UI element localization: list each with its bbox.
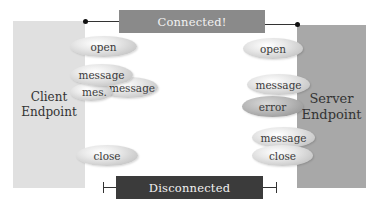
connected-right-dot [295, 22, 300, 27]
disconnected-right-line [263, 187, 276, 188]
server-event-error-label: error [259, 101, 287, 113]
client-event-close-label: close [93, 150, 120, 162]
server-event-open-label: open [260, 43, 286, 55]
client-event-message: message [70, 64, 133, 86]
client-endpoint-label-line2: Endpoint [21, 105, 76, 120]
client-endpoint-label-line1: Client [21, 90, 76, 105]
client-event-open-label: open [90, 41, 116, 53]
server-endpoint-label-line2: Endpoint [301, 107, 361, 123]
connected-left-dot [83, 19, 88, 24]
client-event-close: close [76, 145, 138, 166]
connected-right-line [265, 24, 297, 25]
disconnected-label: Disconnected [149, 181, 230, 195]
server-event-error: error [242, 96, 303, 117]
server-endpoint-label-line1: Server [301, 91, 361, 107]
connected-left-line [86, 21, 119, 22]
server-event-close: close [252, 145, 313, 166]
server-event-close-label: close [269, 150, 296, 162]
disconnected-bar: Disconnected [116, 176, 263, 199]
server-event-open: open [243, 38, 303, 59]
client-event-open: open [70, 36, 137, 57]
server-endpoint-panel: Server Endpoint [297, 25, 366, 188]
server-event-message-2-label: message [260, 132, 306, 144]
server-event-message: message [247, 74, 310, 95]
connected-label: Connected! [157, 15, 226, 29]
client-event-message-partial-label: mes. [82, 86, 107, 98]
disconnected-left-tick [103, 182, 104, 193]
server-event-message-label: message [255, 79, 301, 91]
client-event-message-label: message [78, 69, 124, 81]
connected-bar: Connected! [119, 10, 265, 33]
disconnected-right-tick [276, 182, 277, 193]
disconnected-left-line [103, 187, 116, 188]
